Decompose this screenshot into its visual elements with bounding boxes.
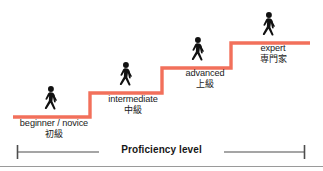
step-label-expert: expert 専門家 xyxy=(236,44,310,65)
walker-advanced-icon xyxy=(192,37,204,60)
proficiency-staircase-diagram: beginner / novice 初級 intermediate 中級 adv… xyxy=(0,0,323,171)
step-label-beginner: beginner / novice 初級 xyxy=(2,119,106,140)
step-label-expert-jp: 専門家 xyxy=(236,55,310,65)
step-label-intermediate-jp: 中級 xyxy=(88,106,178,116)
step-label-beginner-en: beginner / novice xyxy=(2,119,106,129)
walker-intermediate-icon xyxy=(120,62,132,85)
step-label-advanced-jp: 上級 xyxy=(164,80,246,90)
axis-title: Proficiency level xyxy=(99,144,224,155)
walker-beginner-icon xyxy=(45,86,57,109)
step-label-advanced: advanced 上級 xyxy=(164,69,246,90)
step-label-intermediate: intermediate 中級 xyxy=(88,95,178,116)
step-label-advanced-en: advanced xyxy=(164,69,246,79)
step-label-expert-en: expert xyxy=(236,44,310,54)
step-label-intermediate-en: intermediate xyxy=(88,95,178,105)
step-label-beginner-jp: 初級 xyxy=(2,130,106,140)
walker-expert-icon xyxy=(263,12,275,35)
